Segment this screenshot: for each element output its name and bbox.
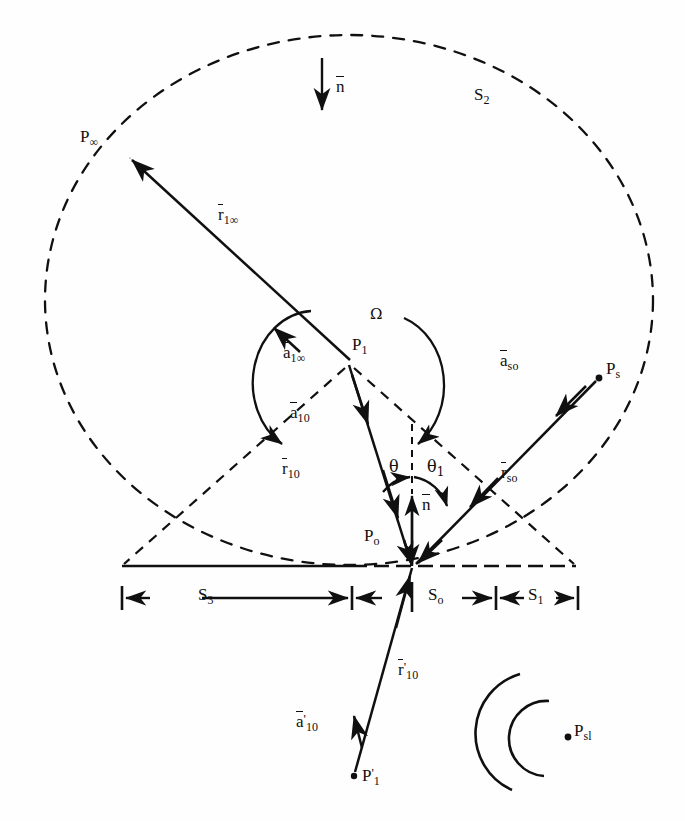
- vector-r1inf-ray: [132, 160, 350, 360]
- label-p1-prime: P'1: [362, 766, 380, 787]
- label-p-sl: Psl: [574, 722, 592, 742]
- label-s2: S2: [474, 86, 490, 106]
- label-r-1-infinity: r1∞: [218, 206, 239, 226]
- label-a-so: aso: [500, 352, 519, 372]
- label-n-top: n: [336, 78, 345, 95]
- label-a-10: a10: [290, 404, 310, 424]
- label-s3: S3: [198, 586, 214, 606]
- solid-angle-omega-arcs: [253, 311, 444, 444]
- label-s0: So: [428, 586, 444, 606]
- wavefront-arcs-psl: [475, 674, 571, 790]
- figure-root: n S2 P∞ r1∞ Ω P1 a1∞ a10 aso Ps r10 θ θ1…: [0, 0, 685, 821]
- label-s1: S1: [528, 586, 544, 606]
- vector-r10-ray: [349, 365, 412, 566]
- label-a-1-infinity: a1∞: [283, 344, 306, 364]
- point-marker-pinf: [130, 158, 131, 159]
- label-p-infinity: P∞: [80, 128, 98, 148]
- label-p0: Po: [364, 527, 380, 547]
- label-theta: θ: [389, 459, 399, 475]
- label-r-10-prime: r'10: [398, 660, 418, 681]
- label-n-mid: n: [422, 496, 431, 513]
- label-p1: P1: [352, 336, 368, 356]
- label-p-s: Ps: [606, 360, 620, 380]
- label-a-10-prime: a'10: [296, 712, 318, 733]
- dimension-line: [122, 582, 578, 612]
- outer-dashed-surface-s2: [45, 35, 653, 565]
- label-omega: Ω: [370, 307, 382, 322]
- label-r-10: r10: [282, 460, 300, 480]
- label-theta-1: θ1: [427, 459, 444, 478]
- label-r-so: rso: [501, 464, 518, 484]
- diagram-canvas: [0, 0, 685, 821]
